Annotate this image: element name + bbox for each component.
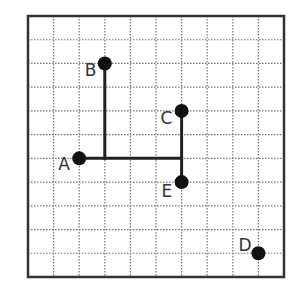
point-marker-icon bbox=[175, 175, 189, 189]
point-a: A bbox=[58, 151, 86, 174]
point-marker-icon bbox=[175, 104, 189, 118]
point-label: E bbox=[162, 181, 173, 201]
point-b: B bbox=[85, 56, 112, 80]
point-label: A bbox=[58, 154, 70, 174]
point-marker-icon bbox=[72, 151, 86, 165]
point-label: B bbox=[85, 60, 97, 80]
point-marker-icon bbox=[251, 246, 265, 260]
point-d: D bbox=[238, 235, 265, 260]
point-label: C bbox=[161, 108, 173, 128]
point-label: D bbox=[238, 235, 251, 255]
point-e: E bbox=[162, 175, 189, 201]
grid-diagram: ABCDE bbox=[0, 0, 300, 288]
point-marker-icon bbox=[98, 56, 112, 70]
point-c: C bbox=[161, 104, 189, 128]
